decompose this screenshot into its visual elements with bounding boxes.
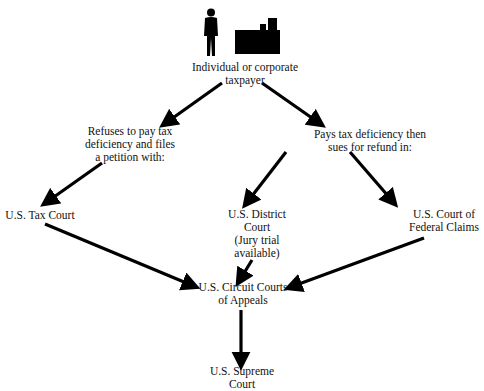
arrow-taxpayer-to-pays <box>262 83 322 125</box>
arrow-taxpayer-to-refuses <box>163 83 222 125</box>
arrow-federal-to-circuit <box>288 238 424 288</box>
arrow-pays-to-federal <box>350 152 395 204</box>
pays-deficiency-node: Pays tax deficiency then sues for refund… <box>300 128 440 154</box>
arrow-pays-to-district <box>245 152 286 205</box>
district-court-node: U.S. District Court (Jury trial availabl… <box>212 208 302 260</box>
arrow-district-to-circuit <box>238 260 252 283</box>
arrow-taxcourt-to-circuit <box>45 224 196 287</box>
taxpayer-node: Individual or corporate taxpayer <box>185 61 305 87</box>
supreme-court-node: U.S. Supreme Court <box>200 365 284 391</box>
refuses-to-pay-node: Refuses to pay tax deficiency and files … <box>60 125 200 164</box>
flow-arrows <box>0 0 484 391</box>
tax-court-node: U.S. Tax Court <box>0 209 80 222</box>
circuit-courts-node: U.S. Circuit Courts of Appeals <box>191 281 295 307</box>
federal-claims-node: U.S. Court of Federal Claims <box>404 208 484 234</box>
arrow-refuses-to-taxcourt <box>44 163 102 204</box>
